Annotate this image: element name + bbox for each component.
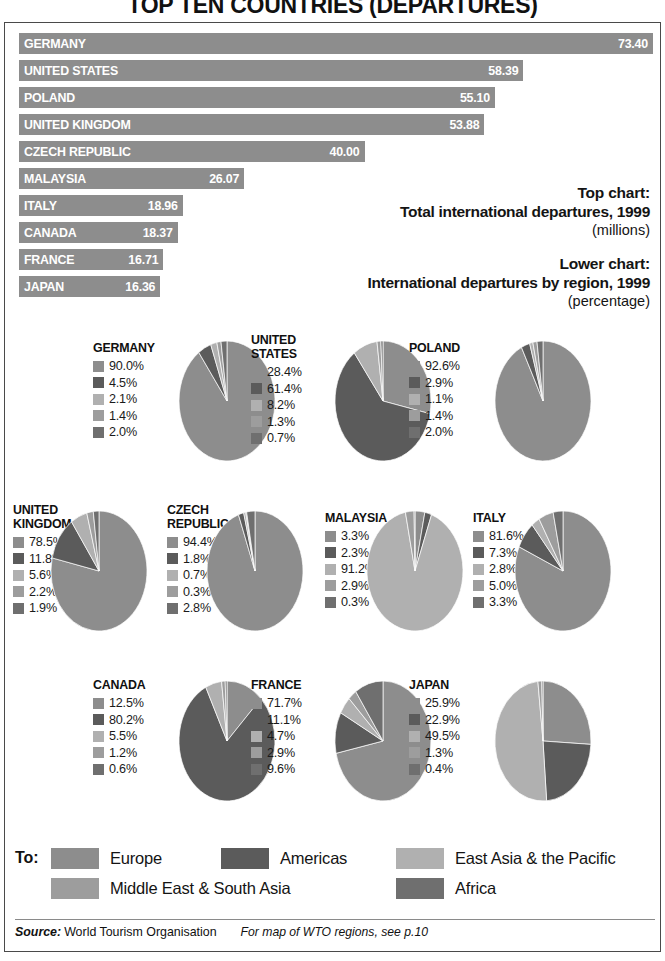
pie-legend-row: 5.0%: [473, 578, 565, 595]
pie-slice: [349, 692, 383, 741]
pie-legend-swatch: [251, 433, 262, 444]
legend-label-middle-east-south-asia: Middle East & South Asia: [110, 879, 290, 898]
source-value: World Tourism Organisation: [64, 925, 216, 939]
pie-legend-row: 1.9%: [13, 600, 105, 617]
pie-legend-row: 12.5%: [93, 695, 185, 712]
legend-swatch-africa: [396, 878, 444, 899]
pie-legend-swatch: [93, 394, 104, 405]
bar-label: JAPAN: [19, 280, 64, 294]
pie-legend-value: 11.1%: [267, 713, 301, 727]
pie-slice: [543, 681, 591, 744]
pie-slice: [87, 511, 99, 571]
bar-label: CZECH REPUBLIC: [19, 145, 131, 159]
bar-value: 18.37: [143, 226, 178, 240]
pie-slice: [179, 341, 275, 461]
pie-slice: [519, 525, 563, 571]
pie-legend-swatch: [167, 537, 178, 548]
pie-legend-swatch: [13, 603, 24, 614]
pie-legend: FRANCE71.7%11.1%4.7%2.9%9.6%: [251, 678, 343, 778]
pie-slice: [52, 522, 99, 571]
pie-legend-swatch: [251, 416, 262, 427]
pie-legend-value: 0.4%: [425, 762, 453, 776]
pie-legend-value: 2.8%: [489, 562, 517, 576]
pie-slice: [206, 681, 227, 741]
pie-slice: [414, 511, 415, 571]
pie-legend-row: 28.4%: [251, 364, 343, 381]
pie-slice: [383, 341, 431, 414]
pie-legend-row: 90.0%: [93, 358, 185, 375]
pie-legend-row: 1.3%: [251, 414, 343, 431]
pie-slice: [217, 341, 227, 401]
pie-legend-swatch: [325, 564, 336, 575]
pie-legend-swatch: [251, 383, 262, 394]
legend-label-africa: Africa: [455, 879, 496, 898]
pie-legend-row: 7.3%: [473, 545, 565, 562]
legend-swatch-middle-east-south-asia: [51, 878, 99, 899]
pie-legend-swatch: [93, 361, 104, 372]
pie-slice: [495, 681, 547, 801]
pie-legend-value: 2.9%: [341, 579, 369, 593]
pie-legend-value: 3.3%: [489, 595, 517, 609]
pie-legend-swatch: [473, 564, 484, 575]
pie-legend-swatch: [13, 553, 24, 564]
bar-value: 26.07: [209, 172, 244, 186]
bar: CZECH REPUBLIC40.00: [19, 141, 365, 162]
pie-slice: [553, 511, 563, 571]
pie-legend-swatch: [325, 547, 336, 558]
pie-legend-value: 5.6%: [29, 568, 57, 582]
pie-legend-value: 49.5%: [425, 729, 460, 743]
pie-legend-value: 1.3%: [267, 415, 295, 429]
pie-legend-value: 91.2%: [341, 562, 376, 576]
bar-value: 16.71: [128, 253, 163, 267]
pie-slice: [515, 511, 611, 631]
pie-legend-row: 2.0%: [409, 424, 501, 441]
pie-slice: [179, 687, 275, 801]
bar: POLAND55.10: [19, 87, 495, 108]
pie-legend-swatch: [93, 764, 104, 775]
pie-legend: UNITED STATES28.4%61.4%8.2%1.3%0.7%: [251, 333, 343, 447]
pie-country-name: CANADA: [93, 678, 185, 692]
pie-slice: [225, 681, 227, 741]
pie-legend-swatch: [473, 597, 484, 608]
bar-value: 53.88: [449, 118, 484, 132]
pie-slice: [530, 342, 543, 401]
pie-legend-swatch: [409, 731, 420, 742]
pie-legend-row: 2.0%: [93, 424, 185, 441]
pie-slice: [356, 681, 383, 741]
pie-legend-value: 94.4%: [183, 535, 218, 549]
bar-row: UNITED KINGDOM53.88: [19, 114, 655, 135]
pie-legend: CANADA12.5%80.2%5.5%1.2%0.6%: [93, 678, 185, 778]
pie-slice: [72, 513, 99, 571]
bar-value: 18.96: [148, 199, 183, 213]
pie-legend-row: 4.7%: [251, 728, 343, 745]
pie-legend-swatch: [325, 580, 336, 591]
pie-legend-row: 11.8%: [13, 551, 105, 568]
bar: CANADA18.37: [19, 222, 178, 243]
pie-legend-swatch: [167, 586, 178, 597]
pie-legend-value: 22.9%: [425, 713, 460, 727]
pie-legend-value: 2.1%: [109, 392, 137, 406]
pie-legend-swatch: [409, 747, 420, 758]
legend-item-middle-east-south-asia: Middle East & South Asia: [51, 878, 396, 899]
pie-graphic: [493, 679, 593, 803]
pie-slice: [222, 681, 227, 741]
pie-legend-value: 5.0%: [489, 579, 517, 593]
caption-lower-unit: (percentage): [300, 292, 650, 311]
pie-legend-row: 2.3%: [325, 545, 417, 562]
pie-legend: POLAND92.6%2.9%1.1%1.4%2.0%: [409, 341, 501, 441]
caption-top-unit: (millions): [300, 221, 650, 240]
pie-legend-row: 78.5%: [13, 534, 105, 551]
pie-legend-value: 2.8%: [183, 601, 211, 615]
chart-frame: GERMANY73.40UNITED STATES58.39POLAND55.1…: [4, 22, 661, 952]
pie-legend-row: 3.3%: [473, 594, 565, 611]
pie-legend-value: 92.6%: [425, 359, 460, 373]
pie-slice: [354, 341, 383, 401]
pie-legend-value: 1.4%: [425, 409, 453, 423]
pie-legend-swatch: [13, 537, 24, 548]
pie-legend-value: 90.0%: [109, 359, 144, 373]
pie-graphic: [205, 509, 305, 633]
pie-graphic: [333, 679, 433, 803]
bar-label: POLAND: [19, 91, 75, 105]
bar: JAPAN16.36: [19, 276, 160, 297]
pie-legend-swatch: [251, 764, 262, 775]
